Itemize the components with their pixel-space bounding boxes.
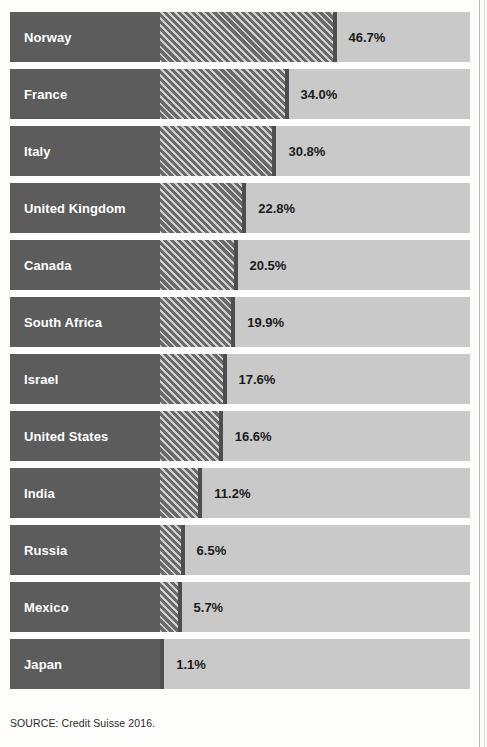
bar-value-fill xyxy=(160,12,337,62)
horizontal-bar-chart: Norway46.7%France34.0%Italy30.8%United K… xyxy=(10,12,470,696)
bar-category-label: Japan xyxy=(24,658,62,671)
bar-value-label: 22.8% xyxy=(246,183,295,233)
bar-value-label: 1.1% xyxy=(164,639,206,689)
bar-category-label: Mexico xyxy=(24,601,69,614)
bar-row: Israel17.6% xyxy=(10,354,470,404)
bar-category-label: United States xyxy=(24,430,108,443)
bar-value-fill xyxy=(160,297,235,347)
bar-category-label: Italy xyxy=(24,145,51,158)
bar-value-label: 16.6% xyxy=(223,411,272,461)
bar-row: United States16.6% xyxy=(10,411,470,461)
page-edge-rule-secondary xyxy=(484,0,485,747)
bar-value-label: 34.0% xyxy=(289,69,338,119)
bar-label-block: Italy xyxy=(10,126,160,176)
bar-value-fill xyxy=(160,582,182,632)
bar-row: Japan1.1% xyxy=(10,639,470,689)
bar-label-block: France xyxy=(10,69,160,119)
bar-label-block: Norway xyxy=(10,12,160,62)
bar-value-label: 20.5% xyxy=(238,240,287,290)
page-edge-rule xyxy=(479,0,480,747)
bar-value-label: 19.9% xyxy=(235,297,284,347)
bar-category-label: Norway xyxy=(24,31,72,44)
bar-row: South Africa19.9% xyxy=(10,297,470,347)
bar-label-block: Mexico xyxy=(10,582,160,632)
chart-figure: Norway46.7%France34.0%Italy30.8%United K… xyxy=(0,0,487,747)
bar-label-block: Japan xyxy=(10,639,160,689)
bar-value-fill xyxy=(160,126,276,176)
bar-category-label: South Africa xyxy=(24,316,102,329)
bar-value-fill xyxy=(160,525,185,575)
bar-category-label: United Kingdom xyxy=(24,202,126,215)
bar-label-block: South Africa xyxy=(10,297,160,347)
bar-row: France34.0% xyxy=(10,69,470,119)
bar-label-block: United Kingdom xyxy=(10,183,160,233)
bar-category-label: Israel xyxy=(24,373,59,386)
bar-value-label: 30.8% xyxy=(276,126,325,176)
bar-value-label: 6.5% xyxy=(185,525,227,575)
bar-label-block: India xyxy=(10,468,160,518)
bar-value-fill xyxy=(160,468,202,518)
bar-value-label: 17.6% xyxy=(227,354,276,404)
bar-value-label: 5.7% xyxy=(182,582,224,632)
bar-value-label: 46.7% xyxy=(337,12,386,62)
bar-value-fill xyxy=(160,411,223,461)
bar-value-label: 11.2% xyxy=(202,468,250,518)
bar-row: Italy30.8% xyxy=(10,126,470,176)
bar-row: India11.2% xyxy=(10,468,470,518)
bar-label-block: Canada xyxy=(10,240,160,290)
bar-row: Canada20.5% xyxy=(10,240,470,290)
bar-value-fill xyxy=(160,240,238,290)
bar-category-label: Russia xyxy=(24,544,67,557)
bar-row: Mexico5.7% xyxy=(10,582,470,632)
bar-label-block: Israel xyxy=(10,354,160,404)
bar-value-fill xyxy=(160,69,289,119)
bar-row: Russia6.5% xyxy=(10,525,470,575)
bar-label-block: United States xyxy=(10,411,160,461)
bar-value-fill xyxy=(160,183,246,233)
bar-category-label: France xyxy=(24,88,67,101)
bar-row: United Kingdom22.8% xyxy=(10,183,470,233)
bar-row: Norway46.7% xyxy=(10,12,470,62)
bar-label-block: Russia xyxy=(10,525,160,575)
bar-value-fill xyxy=(160,354,227,404)
bar-category-label: Canada xyxy=(24,259,72,272)
bar-category-label: India xyxy=(24,487,55,500)
source-note: SOURCE: Credit Suisse 2016. xyxy=(10,717,155,729)
